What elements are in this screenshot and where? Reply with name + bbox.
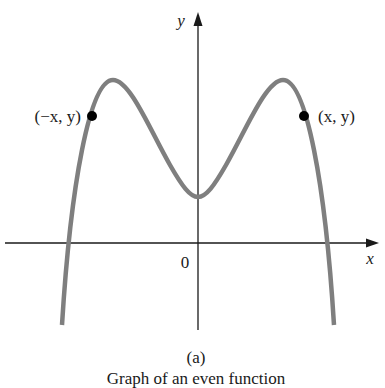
even-function-diagram: (−x, y) (x, y) y x 0 (a) Graph of an eve… [0,0,385,388]
x-axis-label: x [365,249,374,268]
point-right-label: (x, y) [318,107,355,126]
origin-label: 0 [181,253,190,272]
y-axis-arrow-icon [194,12,203,26]
point-left [87,111,97,121]
y-axis-label: y [175,11,185,30]
figure-sublabel: (a) [187,348,206,367]
x-axis-arrow-icon [366,239,379,248]
point-right [299,111,309,121]
figure-caption: Graph of an even function [107,369,286,388]
point-left-label: (−x, y) [35,107,81,126]
